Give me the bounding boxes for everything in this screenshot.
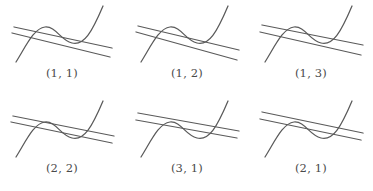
panel-4-label: (2, 2) <box>0 161 124 175</box>
panel-6-plot <box>249 95 373 165</box>
cubic-wave-curve <box>16 6 103 62</box>
panel-1-plot <box>0 0 124 70</box>
panel-2: (1, 2) <box>125 0 249 95</box>
panel-3: (1, 3) <box>249 0 373 95</box>
figure-panel-grid: (1, 1) (1, 2) (1, 3) <box>0 0 373 191</box>
panel-5: (3, 1) <box>125 95 249 190</box>
panel-2-label: (1, 2) <box>125 66 249 80</box>
panel-1: (1, 1) <box>0 0 124 95</box>
upper-secant-line <box>138 113 239 131</box>
panel-4-plot <box>0 95 124 165</box>
panel-4: (2, 2) <box>0 95 124 190</box>
panel-2-plot <box>125 0 249 70</box>
panel-6-label: (2, 1) <box>249 161 373 175</box>
panel-3-label: (1, 3) <box>249 66 373 80</box>
cubic-wave-curve <box>16 101 103 157</box>
panel-1-label: (1, 1) <box>0 66 124 80</box>
panel-5-label: (3, 1) <box>125 161 249 175</box>
lower-secant-line <box>260 32 361 55</box>
lower-secant-line <box>136 120 237 138</box>
panel-5-plot <box>125 95 249 165</box>
panel-6: (2, 1) <box>249 95 373 190</box>
panel-3-plot <box>249 0 373 70</box>
